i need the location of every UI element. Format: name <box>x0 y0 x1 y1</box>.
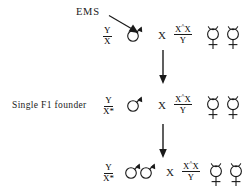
row-3-cross-operator: X <box>166 166 174 178</box>
row-3-left-genotype: Y X* <box>103 163 114 183</box>
row-2-cross-operator: X <box>158 99 166 111</box>
ems-label: EMS <box>76 6 100 17</box>
row-3-male-symbol-2 <box>139 162 157 180</box>
row-3-right-genotype: X^X Y <box>182 162 200 181</box>
row-1-right-num-tail: X <box>185 24 191 34</box>
row-2-right-num-tail: X <box>185 94 191 104</box>
row-2-right-genotype-numerator: X^X <box>174 95 192 105</box>
row-2-right-genotype-denominator: Y <box>180 105 186 114</box>
row-3-hermaphrodite-symbol-2 <box>227 158 245 188</box>
genetic-cross-diagram: EMS Y X X X^X Y <box>0 0 248 194</box>
row-1-left-genotype-denominator: X <box>104 37 111 47</box>
row-3-right-genotype-denominator: Y <box>188 172 194 181</box>
row-1-left-genotype: Y X <box>103 26 112 46</box>
row-3-left-genotype-numerator: Y <box>104 163 113 174</box>
row-1-right-genotype: X^X Y <box>174 25 192 44</box>
row-3-left-genotype-denominator: X* <box>103 174 114 184</box>
row-1-hermaphrodite-symbol-1 <box>204 21 222 51</box>
row-2-hermaphrodite-symbol-2 <box>224 91 242 121</box>
row-1-male-symbol <box>126 25 144 43</box>
row-1-cross-operator: X <box>158 29 166 41</box>
row-3-right-num-tail: X <box>193 161 199 171</box>
row-2-left-genotype-numerator: Y <box>104 96 113 107</box>
row-1-right-genotype-denominator: Y <box>180 35 186 44</box>
row-2-left-den-star: * <box>110 106 115 116</box>
row-3-left-den-star: * <box>110 173 115 183</box>
row-1-right-genotype-numerator: X^X <box>174 25 192 35</box>
row-2-hermaphrodite-symbol-1 <box>204 91 222 121</box>
generation-arrow-1 <box>157 50 169 85</box>
row-1-hermaphrodite-symbol-2 <box>224 21 242 51</box>
row-1-left-genotype-numerator: Y <box>103 26 112 37</box>
row-3-hermaphrodite-symbol-1 <box>207 158 225 188</box>
row-2-left-genotype-denominator: X* <box>103 107 114 117</box>
generation-arrow-2 <box>157 124 169 159</box>
row-2-male-symbol <box>126 95 144 113</box>
row-3-right-genotype-numerator: X^X <box>182 162 200 172</box>
row-2-left-genotype: Y X* <box>103 96 114 116</box>
f1-founder-label: Single F1 founder <box>12 100 87 110</box>
row-2-right-genotype: X^X Y <box>174 95 192 114</box>
